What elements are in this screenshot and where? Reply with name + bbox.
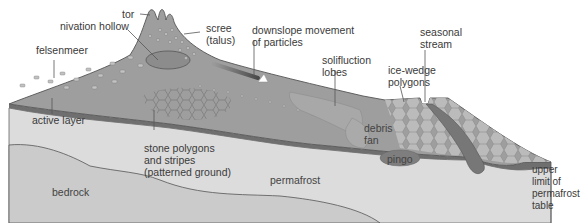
label-nivation-hollow: nivation hollow xyxy=(60,20,129,32)
nivation-hollow-shape xyxy=(146,51,190,69)
label-downslope-movement: downslope movement of particles xyxy=(252,24,354,48)
label-ice-wedge-polygons: ice-wedge polygons xyxy=(388,64,436,88)
label-scree: scree (talus) xyxy=(206,22,235,46)
label-solifluction-lobes: solifluction lobes xyxy=(322,54,371,78)
label-debris-fan: debris fan xyxy=(364,122,393,146)
periglacial-diagram: tor nivation hollow scree (talus) downsl… xyxy=(0,0,584,223)
label-felsenmeer: felsenmeer xyxy=(36,44,88,56)
label-tor: tor xyxy=(122,8,134,20)
label-seasonal-stream: seasonal stream xyxy=(420,26,462,50)
label-stone-polygons: stone polygons and stripes (patterned gr… xyxy=(144,142,231,178)
label-permafrost: permafrost xyxy=(270,174,320,186)
label-upper-limit-permafrost-table: upper limit of permafrost table xyxy=(532,164,580,212)
label-bedrock: bedrock xyxy=(52,186,89,198)
label-pingo: pingo xyxy=(387,153,413,165)
label-active-layer: active layer xyxy=(32,114,85,126)
